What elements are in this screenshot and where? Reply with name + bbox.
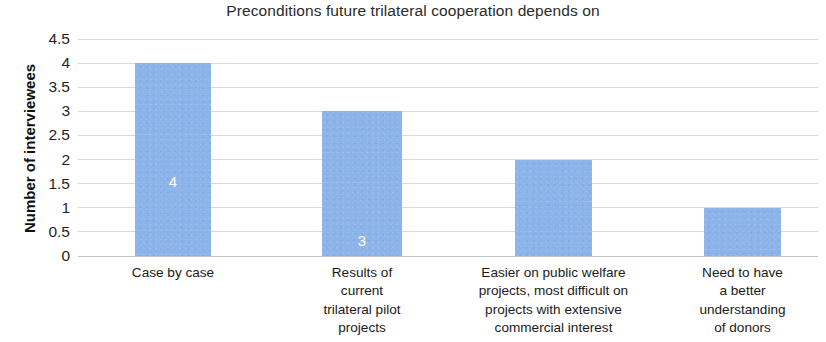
chart-title: Preconditions future trilateral cooperat… xyxy=(0,2,826,20)
y-axis-tick-label: 0 xyxy=(10,248,70,264)
y-axis-tick-label: 4.5 xyxy=(10,31,70,47)
bar[interactable]: 1 xyxy=(704,208,781,256)
y-axis-tick-label: 3.5 xyxy=(10,79,70,95)
y-axis-tick-label: 1.5 xyxy=(10,176,70,192)
x-axis-tick-label: Results ofcurrenttrilateral pilotproject… xyxy=(286,264,438,338)
x-axis-tick-label: Easier on public welfareprojects, most d… xyxy=(446,264,661,338)
bar[interactable]: 2 xyxy=(515,160,592,256)
y-axis-tick-label: 1 xyxy=(10,200,70,216)
y-axis-tick-label: 2.5 xyxy=(10,128,70,144)
y-axis-tick-labels: 00.511.522.533.544.5 xyxy=(0,39,70,256)
y-axis-tick-label: 0.5 xyxy=(10,224,70,240)
y-axis-tick-label: 3 xyxy=(10,104,70,120)
bar-chart-figure: Preconditions future trilateral cooperat… xyxy=(0,0,826,342)
gridline xyxy=(78,39,818,40)
y-axis-tick-label: 4 xyxy=(10,55,70,71)
bar-value-label: 4 xyxy=(135,174,211,189)
y-axis-tick-label: 2 xyxy=(10,152,70,168)
x-axis-tick-labels: Case by caseResults ofcurrenttrilateral … xyxy=(78,264,818,342)
bar[interactable]: 4 xyxy=(135,63,211,256)
x-axis-tick-label: Case by case xyxy=(88,264,258,282)
bar[interactable]: 3 xyxy=(322,111,402,256)
bar-value-label: 3 xyxy=(322,233,402,248)
x-axis-tick-label: Need to havea betterunderstandingof dono… xyxy=(670,264,815,338)
plot-area: 4321 xyxy=(78,39,818,256)
